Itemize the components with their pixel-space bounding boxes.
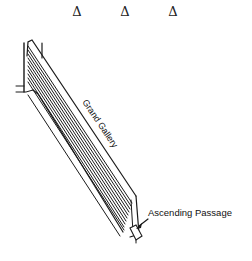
gallery-drawing: Grand Gallery Ascending Passage [0, 0, 252, 261]
ascending-passage-label: Ascending Passage [148, 207, 232, 218]
grand-gallery-diagram: Δ Δ Δ [0, 0, 252, 261]
